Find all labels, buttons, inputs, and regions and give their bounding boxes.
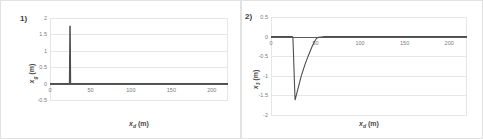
data-series-line: [50, 26, 228, 83]
y-axis-tick-label: 1.5: [39, 31, 47, 37]
panel-1-label: 1): [20, 14, 27, 23]
y-axis-tick-label: 0.5: [260, 14, 268, 20]
y-axis-tick-label: 2: [44, 15, 47, 21]
y-axis-tick-label: 0: [44, 81, 47, 87]
series-layer: [271, 17, 467, 115]
y-axis-tick-label: 1: [44, 48, 47, 54]
figure-two-panel-line-charts: 1) -0.500.511.52050100150200 xd (m) xg (…: [0, 0, 483, 139]
panel-1-x-axis-title: xd (m): [129, 120, 149, 129]
panel-2-x-axis-title: xd (m): [359, 120, 379, 129]
gridline-horizontal: [50, 100, 228, 101]
series-layer: [50, 18, 228, 100]
data-series-line: [271, 37, 467, 101]
panel-2-y-axis-title: x3 (m): [252, 70, 261, 90]
panel-1: 1) -0.500.511.52050100150200 xd (m) xg (…: [0, 0, 241, 139]
gridline-horizontal: [271, 115, 467, 116]
y-axis-tick-label: 0.5: [39, 64, 47, 70]
y-axis-tick-label: -1: [263, 73, 268, 79]
y-axis-tick-label: 0: [265, 34, 268, 40]
panel-1-y-axis-title: xg (m): [28, 64, 37, 84]
panel-1-plot-area: -0.500.511.52050100150200: [50, 18, 228, 100]
panel-2: 2) -2-1.5-1-0.500.5050100150200 xd (m) x…: [241, 0, 483, 139]
y-axis-tick-label: -1.5: [259, 92, 268, 98]
panel-2-plot-area: -2-1.5-1-0.500.5050100150200: [271, 17, 467, 115]
y-axis-tick-label: -2: [263, 112, 268, 118]
y-axis-tick-label: -0.5: [38, 97, 47, 103]
y-axis-tick-label: -0.5: [259, 53, 268, 59]
panel-2-label: 2): [245, 12, 252, 21]
